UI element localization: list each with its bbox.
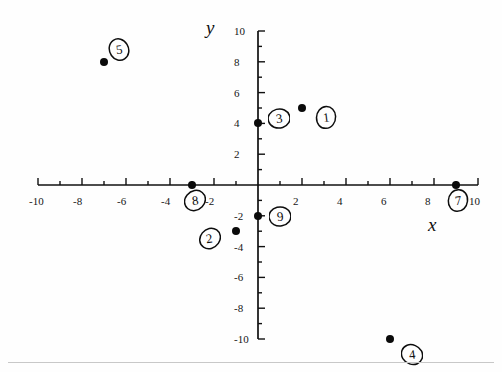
y-tick-label: 2: [234, 149, 240, 160]
y-tick-label: -4: [234, 242, 243, 253]
axes-group: [38, 31, 478, 339]
data-point: [100, 58, 108, 66]
worksheet-page: -10-8-6-4-2246810108642-2-4-6-8-10 12345…: [0, 0, 502, 372]
data-point: [386, 335, 394, 343]
y-axis-label: y: [206, 18, 214, 37]
x-tick-label: -10: [29, 196, 44, 207]
x-tick-label: -4: [161, 196, 170, 207]
point-number-digit: 3: [275, 112, 283, 126]
coordinate-plane: [0, 0, 502, 372]
y-tick-label: 10: [234, 26, 245, 37]
x-axis-label: x: [428, 215, 436, 234]
y-tick-label: 4: [234, 118, 240, 129]
x-tick-label: 10: [469, 196, 480, 207]
y-tick-label: -6: [234, 272, 243, 283]
x-tick-label: 2: [293, 196, 299, 207]
y-tick-label: 6: [234, 88, 240, 99]
point-number-label: 2: [199, 226, 221, 251]
point-number-label: 3: [268, 106, 290, 131]
point-number-label: 5: [108, 37, 130, 62]
point-number-digit: 4: [408, 348, 416, 362]
point-number-label: 9: [269, 204, 291, 229]
x-tick-label: 4: [337, 196, 343, 207]
page-bottom-rule: [8, 362, 494, 363]
x-tick-label: -2: [205, 196, 214, 207]
point-number-label: 8: [184, 188, 206, 213]
y-tick-label: -10: [234, 334, 249, 345]
y-tick-label: -8: [234, 303, 243, 314]
point-number-digit: 1: [322, 111, 330, 125]
data-point: [254, 212, 262, 220]
y-tick-label: -2: [234, 211, 243, 222]
x-tick-label: 6: [381, 196, 387, 207]
x-tick-label: -6: [117, 196, 126, 207]
x-tick-label: 8: [425, 196, 431, 207]
point-number-label: 7: [447, 188, 469, 213]
point-number-label: 1: [315, 105, 337, 130]
x-tick-label: -8: [73, 196, 82, 207]
data-point: [298, 104, 306, 112]
point-number-digit: 9: [276, 209, 284, 223]
point-number-digit: 7: [454, 194, 462, 208]
y-tick-label: 8: [234, 57, 240, 68]
point-number-label: 4: [401, 342, 423, 367]
